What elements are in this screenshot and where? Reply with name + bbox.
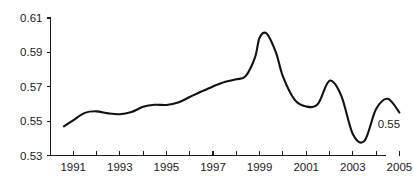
- x-tick-label: 2003: [340, 161, 366, 173]
- x-tick-label: 1999: [247, 161, 273, 173]
- x-axis-tick-labels: 19911993199519971999200120032005: [60, 161, 412, 173]
- y-axis: 0.610.590.570.550.53: [20, 12, 50, 162]
- y-axis-ticks: [47, 18, 51, 156]
- x-tick-label: 2001: [293, 161, 319, 173]
- x-tick-label: 2005: [387, 161, 413, 173]
- x-tick-label: 1995: [154, 161, 180, 173]
- y-tick-label: 0.53: [20, 150, 42, 162]
- data-line-value: [64, 33, 400, 143]
- data-series-group: [64, 33, 400, 143]
- y-tick-label: 0.57: [20, 81, 42, 93]
- line-chart: 0.610.590.570.550.53 1991199319951997199…: [0, 0, 413, 183]
- x-tick-label: 1991: [60, 161, 86, 173]
- y-tick-label: 0.59: [20, 46, 42, 58]
- y-tick-label: 0.55: [20, 115, 42, 127]
- x-tick-label: 1997: [200, 161, 226, 173]
- chart-annotations: 0.55: [378, 118, 400, 130]
- y-tick-label: 0.61: [20, 12, 42, 24]
- endpoint-value-label: 0.55: [378, 118, 400, 130]
- x-axis: 19911993199519971999200120032005: [50, 151, 412, 173]
- x-axis-minor-ticks: [97, 151, 377, 156]
- chart-canvas: 0.610.590.570.550.53 1991199319951997199…: [0, 0, 413, 183]
- y-axis-tick-labels: 0.610.590.570.550.53: [20, 12, 42, 162]
- x-tick-label: 1993: [107, 161, 133, 173]
